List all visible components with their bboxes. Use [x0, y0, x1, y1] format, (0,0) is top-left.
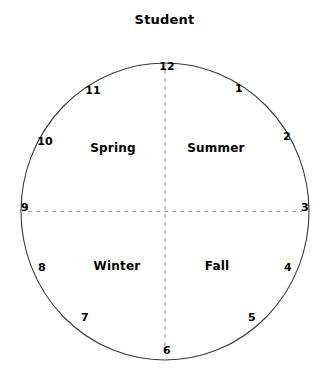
- hour-label-5: 5: [248, 312, 256, 323]
- hour-label-3: 3: [301, 202, 309, 213]
- page-title: Student: [0, 12, 329, 28]
- hour-label-10: 10: [37, 136, 53, 147]
- hour-label-9: 9: [21, 202, 29, 213]
- hour-label-4: 4: [284, 262, 292, 273]
- hour-label-2: 2: [283, 131, 291, 142]
- hour-label-1: 1: [235, 83, 243, 94]
- clock-face: [20, 62, 310, 361]
- hour-label-12: 12: [159, 61, 175, 72]
- clock-diagram: Student 12 1 2 3 4 5 6 7 8 9 10 11 Sprin…: [0, 0, 329, 378]
- hour-label-7: 7: [81, 312, 89, 323]
- quadrant-label-fall: Fall: [205, 260, 230, 272]
- quadrant-label-winter: Winter: [94, 260, 141, 272]
- quadrant-label-spring: Spring: [90, 142, 136, 154]
- hour-label-6: 6: [163, 345, 171, 356]
- quadrant-label-summer: Summer: [187, 142, 244, 154]
- clock-face-svg: [20, 62, 310, 361]
- hour-label-8: 8: [38, 262, 46, 273]
- hour-label-11: 11: [85, 85, 101, 96]
